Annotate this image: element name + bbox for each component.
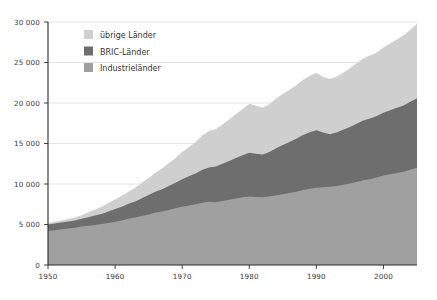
legend-swatch (84, 47, 93, 56)
y-tick-label: 15 000 (14, 139, 40, 148)
y-tick-label: 0 (35, 261, 40, 270)
y-tick-label: 10 000 (14, 180, 40, 189)
legend-label: Industrieländer (100, 64, 162, 73)
x-tick-label: 1990 (307, 272, 326, 281)
y-tick-label: 20 000 (14, 99, 40, 108)
x-tick-label: 1980 (240, 272, 259, 281)
legend-label: BRIC-Länder (100, 48, 150, 57)
y-tick-label: 25 000 (14, 58, 40, 67)
x-tick-label: 1970 (173, 272, 192, 281)
stacked-area-chart: 05 00010 00015 00020 00025 00030 000 195… (0, 0, 437, 300)
chart-legend: übrige LänderBRIC-LänderIndustrieländer (84, 30, 162, 73)
y-tick-label: 5 000 (19, 220, 41, 229)
x-tick-label: 2000 (374, 272, 393, 281)
legend-swatch (84, 63, 93, 72)
x-tick-label: 1960 (106, 272, 125, 281)
y-tick-label: 30 000 (14, 18, 40, 27)
y-axis-ticks: 05 00010 00015 00020 00025 00030 000 (14, 18, 48, 270)
area-series-group (48, 24, 417, 265)
legend-swatch (84, 30, 93, 39)
legend-label: übrige Länder (100, 31, 157, 40)
x-tick-label: 1950 (39, 272, 58, 281)
chart-canvas: 05 00010 00015 00020 00025 00030 000 195… (0, 0, 437, 300)
x-axis-ticks: 195019601970198019902000 (39, 265, 394, 281)
